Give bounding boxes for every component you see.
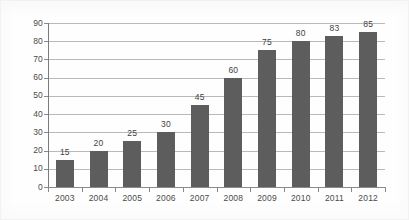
y-axis-tick-mark [44, 132, 48, 133]
x-axis-tick-mark [385, 187, 386, 192]
y-axis-tick-label: 90 [13, 19, 43, 28]
x-axis-tick-label: 2007 [183, 193, 217, 203]
x-axis-tick-mark [318, 187, 319, 192]
y-axis-tick-mark [44, 41, 48, 42]
bar [90, 151, 108, 187]
bar [56, 160, 74, 187]
y-axis-tick-label: 30 [13, 128, 43, 137]
y-axis-tick-label: 40 [13, 110, 43, 119]
x-axis-tick-label: 2008 [216, 193, 250, 203]
y-axis-tick-label: 0 [13, 183, 43, 192]
bar [258, 50, 276, 187]
x-axis-tick-label: 2011 [317, 193, 351, 203]
bar-value-label: 30 [153, 120, 179, 129]
y-axis-tick-mark [44, 151, 48, 152]
y-axis-tick-label: 50 [13, 91, 43, 100]
bar-value-label: 60 [220, 66, 246, 75]
bar-value-label: 85 [355, 20, 381, 29]
x-axis-tick-mark [115, 187, 116, 192]
x-axis-tick-label: 2006 [149, 193, 183, 203]
y-axis-tick-label: 70 [13, 55, 43, 64]
bar-value-label: 80 [288, 29, 314, 38]
x-axis-tick-mark [48, 187, 49, 192]
bar-chart-figure: 0102030405060708090 20032004200520062007… [0, 0, 409, 220]
bar-value-label: 75 [254, 38, 280, 47]
plot-area [48, 23, 385, 187]
y-axis-line [48, 23, 49, 188]
y-axis-tick-label: 60 [13, 73, 43, 82]
bar-value-label: 15 [52, 148, 78, 157]
bar [157, 132, 175, 187]
x-axis-tick-mark [351, 187, 352, 192]
x-axis-tick-mark [217, 187, 218, 192]
bar [224, 78, 242, 187]
x-axis-tick-label: 2010 [284, 193, 318, 203]
y-axis-tick-mark [44, 59, 48, 60]
x-axis-tick-mark [82, 187, 83, 192]
y-axis-tick-mark [44, 114, 48, 115]
y-axis-tick-label: 80 [13, 37, 43, 46]
y-axis-tick-label: 10 [13, 164, 43, 173]
bar-value-label: 25 [119, 129, 145, 138]
y-axis-tick-labels: 0102030405060708090 [9, 1, 43, 220]
bar-value-label: 20 [86, 139, 112, 148]
y-axis-tick-mark [44, 169, 48, 170]
y-axis-tick-label: 20 [13, 146, 43, 155]
y-axis-tick-mark [44, 78, 48, 79]
x-axis-tick-mark [250, 187, 251, 192]
y-axis-tick-mark [44, 96, 48, 97]
x-axis-tick-label: 2012 [351, 193, 385, 203]
bar [191, 105, 209, 187]
x-axis-tick-label: 2009 [250, 193, 284, 203]
x-axis-tick-mark [183, 187, 184, 192]
bar [292, 41, 310, 187]
x-axis-tick-mark [149, 187, 150, 192]
x-axis-tick-mark [284, 187, 285, 192]
x-axis-tick-label: 2003 [48, 193, 82, 203]
bar [359, 32, 377, 187]
y-axis-tick-mark [44, 23, 48, 24]
x-axis-tick-label: 2004 [82, 193, 116, 203]
bar-value-label: 83 [321, 24, 347, 33]
bar [325, 36, 343, 187]
bar-value-label: 45 [187, 93, 213, 102]
bar [123, 141, 141, 187]
x-axis-tick-label: 2005 [115, 193, 149, 203]
